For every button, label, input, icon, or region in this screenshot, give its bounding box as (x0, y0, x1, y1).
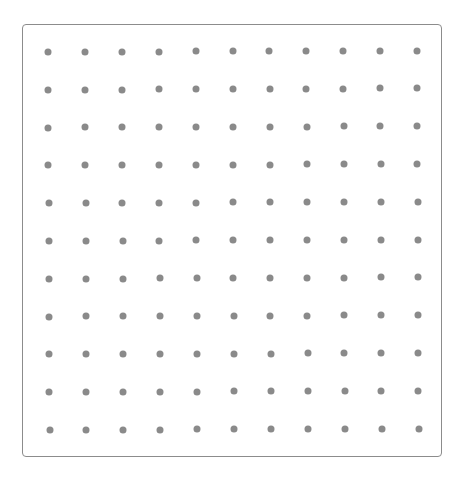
grid-dot (194, 426, 201, 433)
grid-dot (156, 161, 163, 168)
grid-dot (193, 199, 200, 206)
grid-dot (340, 47, 347, 54)
grid-dot (415, 312, 422, 319)
grid-dot (377, 198, 384, 205)
grid-dot (155, 86, 162, 93)
grid-dot (414, 85, 421, 92)
grid-dot (267, 312, 274, 319)
grid-dot (82, 200, 89, 207)
grid-dot (229, 123, 236, 130)
grid-dot (156, 275, 163, 282)
grid-dot (119, 313, 126, 320)
grid-dot (230, 275, 237, 282)
grid-dot (230, 312, 237, 319)
grid-dot (304, 236, 311, 243)
grid-dot (156, 237, 163, 244)
grid-dot (377, 47, 384, 54)
grid-dot (82, 237, 89, 244)
grid-dot (231, 426, 238, 433)
grid-dot (82, 275, 89, 282)
grid-dot (46, 427, 53, 434)
grid-dot (340, 236, 347, 243)
grid-dot (193, 313, 200, 320)
grid-dot (120, 351, 127, 358)
grid-dot (340, 199, 347, 206)
grid-dot (377, 123, 384, 130)
grid-dot (414, 123, 421, 130)
grid-dot (192, 86, 199, 93)
grid-dot (230, 237, 237, 244)
grid-dot (157, 426, 164, 433)
grid-dot (46, 313, 53, 320)
grid-dot (341, 350, 348, 357)
grid-dot (193, 275, 200, 282)
grid-dot (267, 237, 274, 244)
grid-dot (193, 388, 200, 395)
grid-dot (415, 349, 422, 356)
grid-dot (304, 274, 311, 281)
grid-dot (378, 312, 385, 319)
grid-dot (156, 313, 163, 320)
grid-dot (192, 124, 199, 131)
grid-dot (156, 199, 163, 206)
grid-dot (341, 274, 348, 281)
grid-dot (267, 350, 274, 357)
grid-dot (45, 49, 52, 56)
grid-dot (267, 388, 274, 395)
grid-dot (230, 199, 237, 206)
grid-dot (303, 199, 310, 206)
grid-dot (340, 123, 347, 130)
grid-dot (267, 274, 274, 281)
grid-dot (119, 199, 126, 206)
grid-dot (378, 350, 385, 357)
grid-dot (120, 388, 127, 395)
grid-dot (83, 426, 90, 433)
grid-dot (120, 426, 127, 433)
grid-dot (45, 238, 52, 245)
grid-dot (230, 350, 237, 357)
grid-dot (340, 161, 347, 168)
grid-dot (341, 312, 348, 319)
grid-dot (303, 85, 310, 92)
grid-dot (119, 275, 126, 282)
grid-dot (81, 48, 88, 55)
grid-dot (266, 161, 273, 168)
grid-dot (341, 425, 348, 432)
grid-dot (82, 124, 89, 131)
grid-dot (304, 388, 311, 395)
grid-dot (415, 425, 422, 432)
grid-dot (193, 350, 200, 357)
grid-dot (118, 48, 125, 55)
grid-dot (193, 161, 200, 168)
grid-dot (83, 351, 90, 358)
grid-dot (266, 123, 273, 130)
grid-dot (157, 388, 164, 395)
grid-dot (414, 47, 421, 54)
grid-dot (82, 86, 89, 93)
grid-dot (414, 198, 421, 205)
grid-dot (193, 237, 200, 244)
grid-dot (45, 200, 52, 207)
grid-dot (229, 161, 236, 168)
grid-dot (377, 85, 384, 92)
grid-dot (377, 236, 384, 243)
grid-dot (414, 236, 421, 243)
grid-dot (414, 274, 421, 281)
grid-dot (303, 123, 310, 130)
grid-dot (119, 237, 126, 244)
grid-dot (192, 48, 199, 55)
grid-dot (156, 124, 163, 131)
grid-dot (414, 160, 421, 167)
grid-dot (118, 86, 125, 93)
grid-dot (304, 312, 311, 319)
grid-dot (155, 48, 162, 55)
grid-dot (46, 351, 53, 358)
grid-dot (82, 313, 89, 320)
grid-dot (229, 48, 236, 55)
grid-dot (266, 85, 273, 92)
grid-dot (46, 389, 53, 396)
grid-dot (378, 387, 385, 394)
grid-dot (378, 274, 385, 281)
grid-dot (304, 425, 311, 432)
grid-dot (156, 350, 163, 357)
